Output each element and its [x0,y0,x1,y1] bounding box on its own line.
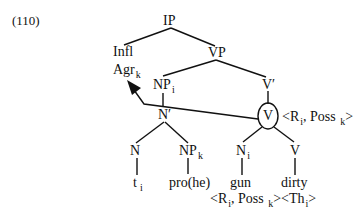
v-head-theta-grid: <Ri, Poss k> [282,110,353,125]
leaf-dirty: dirty [281,176,307,190]
bgrid-close: > [308,191,316,206]
example-number: (110) [12,13,40,29]
grid-close: > [345,109,353,124]
bgrid-index-i2: i [306,198,309,209]
bgrid-index-i: i [228,198,231,209]
ni-label: N [236,143,246,158]
edge-vp-vbar [216,60,266,77]
np-index: i [172,84,175,95]
npk-index: k [198,150,203,161]
node-v-bar: V′ [262,78,275,92]
np-label: NP [153,77,171,92]
node-ip: IP [163,14,175,28]
leaf-trace: ti [133,176,143,191]
node-v-head: V [263,109,273,123]
edge-vp-np [163,60,216,76]
edge-v-ni [243,127,262,142]
edge-nbar-npk [165,122,188,143]
grid-poss: , Poss [303,109,339,124]
grid-index-k: k [340,116,345,127]
bgrid-th: ><Th [273,191,304,206]
node-np-k: NPk [179,144,203,159]
arrowhead-icon [127,80,141,95]
edge-v-v [274,127,294,142]
leaf-pro: pro(he) [169,176,210,190]
bottom-theta-grid: <Ri, Poss k><Thi> [210,192,316,207]
edge-ip-vp [171,28,215,46]
movement-arrow-line [134,90,258,119]
node-infl: Infl [113,45,133,59]
node-vp: VP [208,46,226,60]
bgrid-open: <R [210,191,227,206]
grid-open: <R [282,109,299,124]
grid-index-i: i [300,116,303,127]
node-np-i: NPi [153,78,175,93]
ni-index: i [247,150,250,161]
leaf-gun: gun [230,176,251,190]
bgrid-poss: , Poss [231,191,267,206]
node-n-bar: N′ [158,108,171,122]
trace-label: t [133,175,137,190]
node-n: N [130,144,140,158]
node-n-i: Ni [236,144,250,159]
trace-index: i [140,182,143,193]
agr-index: k [136,69,141,80]
node-agr: Agrk [113,63,141,78]
edge-nbar-n [136,122,164,143]
agr-label: Agr [113,62,135,77]
npk-label: NP [179,143,197,158]
edge-ip-infl [124,28,171,45]
node-v: V [290,144,300,158]
bgrid-index-k: k [268,198,273,209]
